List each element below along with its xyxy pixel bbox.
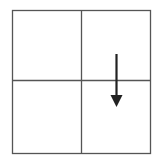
grid-diagram [0, 0, 160, 163]
arrow-head [111, 95, 123, 107]
